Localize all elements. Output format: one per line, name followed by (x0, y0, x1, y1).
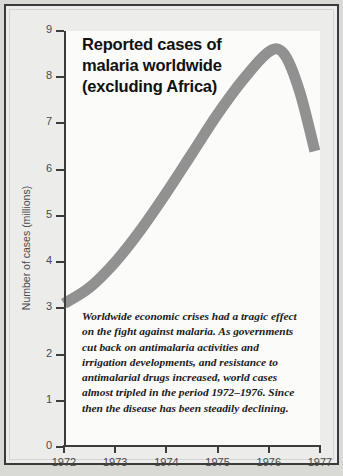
x-tick-label-1975: 1975 (198, 456, 238, 468)
y-tick-1 (56, 400, 64, 402)
x-tick-1977 (319, 445, 321, 453)
y-tick-label-4: 4 (32, 254, 52, 266)
y-tick-9 (56, 30, 64, 32)
x-tick-1972 (63, 445, 65, 453)
caption-line-2: on the fight against malaria. As governm… (82, 324, 308, 339)
y-tick-label-7: 7 (32, 115, 52, 127)
y-tick-label-0: 0 (32, 439, 52, 451)
x-tick-label-1974: 1974 (146, 456, 186, 468)
x-tick-label-1976: 1976 (249, 456, 289, 468)
chart-title-line-1: Reported cases of (82, 34, 272, 55)
chart-title: Reported cases of malaria worldwide (exc… (82, 34, 272, 96)
y-tick-2 (56, 354, 64, 356)
x-tick-1976 (268, 445, 270, 453)
x-axis-line (64, 445, 320, 447)
caption-line-3: cut back on antimalaria activities and (82, 340, 308, 355)
x-tick-label-1977: 1977 (300, 456, 340, 468)
chart-title-line-2: malaria worldwide (82, 55, 272, 76)
x-tick-label-1973: 1973 (95, 456, 135, 468)
chart-frame: 0123456789 197219731974197519761977 Numb… (4, 4, 339, 465)
chart-title-line-3: (excluding Africa) (82, 76, 272, 97)
y-tick-label-2: 2 (32, 347, 52, 359)
y-tick-8 (56, 76, 64, 78)
caption-line-6: almost tripled in the period 1972–1976. … (82, 385, 308, 400)
x-tick-label-1972: 1972 (44, 456, 84, 468)
y-axis-line (64, 31, 66, 447)
y-tick-label-6: 6 (32, 162, 52, 174)
y-tick-5 (56, 215, 64, 217)
x-tick-1975 (217, 445, 219, 453)
caption-line-4: irrigation developments, and resistance … (82, 355, 308, 370)
caption-line-1: Worldwide economic crises had a tragic e… (82, 309, 308, 324)
y-tick-3 (56, 307, 64, 309)
y-tick-label-9: 9 (32, 23, 52, 35)
y-tick-label-1: 1 (32, 393, 52, 405)
y-tick-label-3: 3 (32, 300, 52, 312)
x-tick-1974 (165, 445, 167, 453)
x-tick-1973 (114, 445, 116, 453)
y-tick-6 (56, 169, 64, 171)
caption-line-5: antimalarial drugs increased, world case… (82, 370, 308, 385)
y-tick-4 (56, 261, 64, 263)
chart-caption: Worldwide economic crises had a tragic e… (82, 309, 308, 416)
y-tick-label-5: 5 (32, 208, 52, 220)
y-tick-7 (56, 122, 64, 124)
caption-line-7: then the disease has been steadily decli… (82, 401, 308, 416)
y-axis-title: Number of cases (millions) (20, 158, 32, 338)
chart-page: 0123456789 197219731974197519761977 Numb… (0, 0, 343, 476)
y-tick-label-8: 8 (32, 69, 52, 81)
